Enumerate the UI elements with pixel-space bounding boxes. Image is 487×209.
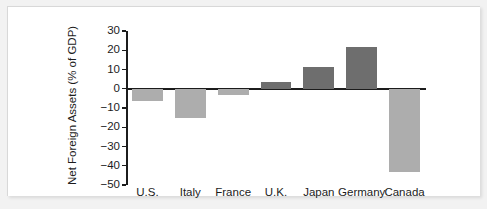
bar-japan (303, 67, 334, 89)
chart-panel: Net Foreign Assets (% of GDP) 3020100−10… (7, 6, 480, 196)
y-tick-label: −20 (100, 122, 120, 134)
y-tick-mark (122, 69, 126, 70)
y-tick-mark (122, 184, 126, 185)
y-tick-mark (122, 50, 126, 51)
y-tick-mark (122, 30, 126, 31)
category-label: Japan (303, 187, 334, 199)
y-tick-label: −50 (100, 179, 120, 191)
y-tick-mark (122, 165, 126, 166)
bar-u-k (261, 82, 292, 89)
category-label: U.K. (265, 187, 287, 199)
figure-frame: Net Foreign Assets (% of GDP) 3020100−10… (0, 0, 487, 209)
category-label: France (215, 187, 251, 199)
bar-italy (175, 89, 206, 118)
category-label: Canada (384, 187, 424, 199)
y-axis-spine (126, 31, 128, 185)
category-label: Italy (180, 187, 201, 199)
category-label: U.S. (136, 187, 158, 199)
bar-u-s (132, 89, 163, 102)
y-tick-label: 20 (107, 45, 120, 57)
y-axis-title: Net Foreign Assets (% of GDP) (64, 31, 80, 185)
bar-canada (389, 89, 420, 172)
y-tick-label: 30 (107, 25, 120, 37)
y-tick-mark (122, 107, 126, 108)
y-tick-mark (122, 146, 126, 147)
y-tick-label: 10 (107, 64, 120, 76)
y-tick-mark (122, 127, 126, 128)
bar-france (218, 89, 249, 96)
y-tick-label: −30 (100, 141, 120, 153)
y-tick-label: −40 (100, 160, 120, 172)
x-axis-category-labels: U.S.ItalyFranceU.K.JapanGermanyCanada (126, 187, 426, 203)
y-tick-label: 0 (114, 83, 120, 95)
y-tick-label: −10 (100, 102, 120, 114)
category-label: Germany (338, 187, 385, 199)
plot-area: 3020100−10−20−30−40−50 (126, 31, 426, 185)
bar-germany (346, 47, 377, 88)
